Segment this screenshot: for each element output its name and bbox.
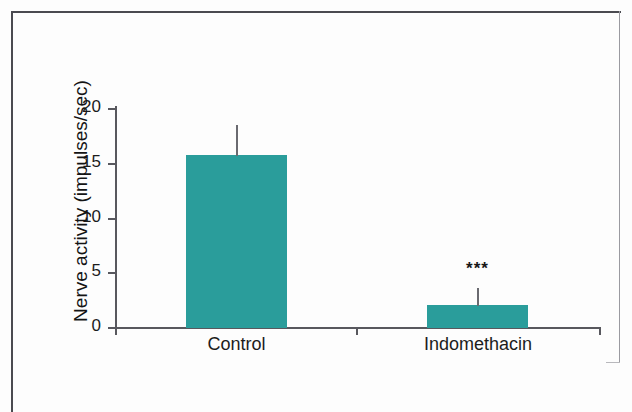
- error-bar-control: [236, 125, 238, 156]
- x-category-label-indomethacin: Indomethacin: [404, 334, 552, 355]
- x-tick-end: [599, 327, 601, 335]
- bar-indomethacin: [427, 305, 528, 328]
- bar-chart-plot: 20 15 10 5 0 Nerve activity (impulses/se…: [0, 0, 632, 412]
- y-axis-line: [115, 106, 117, 328]
- y-tick-20: [108, 108, 115, 110]
- x-tick-start: [115, 327, 117, 335]
- error-bar-indomethacin: [477, 288, 479, 306]
- y-tick-5: [108, 272, 115, 274]
- bar-control: [186, 155, 287, 328]
- y-tick-10: [108, 218, 115, 220]
- x-tick-middle: [356, 327, 358, 335]
- figure-page: 20 15 10 5 0 Nerve activity (impulses/se…: [0, 0, 632, 412]
- y-tick-15: [108, 163, 115, 165]
- significance-marker-indomethacin: ***: [427, 259, 528, 279]
- y-tick-0: [108, 327, 115, 329]
- x-category-label-control: Control: [186, 334, 287, 355]
- y-axis-title: Nerve activity (impulses/sec): [70, 56, 92, 346]
